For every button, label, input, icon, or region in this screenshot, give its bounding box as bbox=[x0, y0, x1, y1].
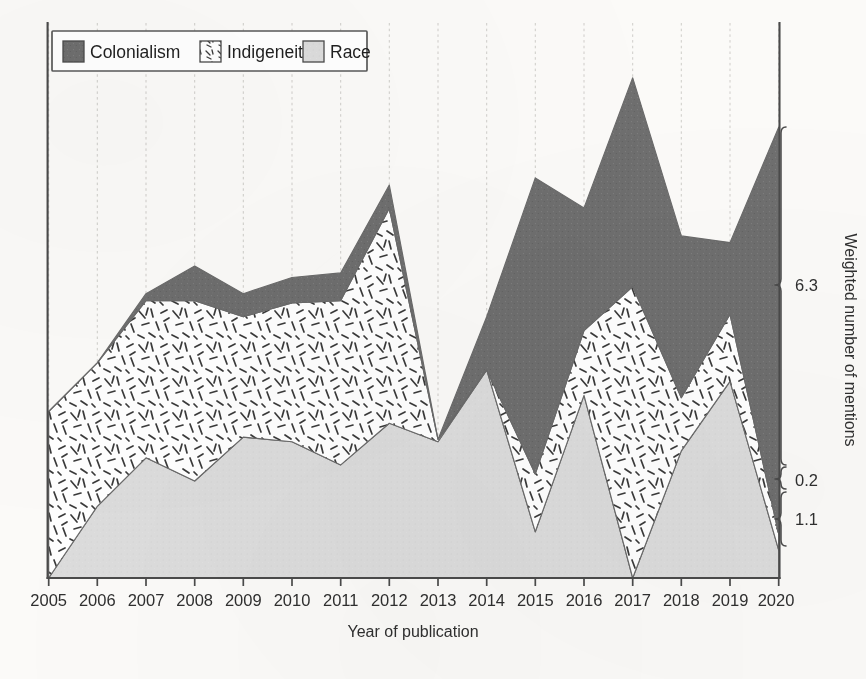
figure-container: 2005 2006 2007 2008 2009 2010 2011 2012 … bbox=[0, 0, 866, 679]
legend-label-race: Race bbox=[330, 42, 371, 62]
x-tick-label: 2014 bbox=[468, 591, 505, 609]
brace-label-indigeneity: 0.2 bbox=[795, 471, 818, 489]
x-tick-label: 2006 bbox=[79, 591, 116, 609]
x-tick-label: 2013 bbox=[420, 591, 457, 609]
y-axis-brace-indigeneity: 0.2 bbox=[775, 467, 818, 489]
x-tick-label: 2016 bbox=[566, 591, 603, 609]
y-axis-brace-colonialism: 6.3 bbox=[775, 127, 818, 465]
brace-label-race: 1.1 bbox=[795, 510, 818, 528]
x-axis-tick-labels: 2005 2006 2007 2008 2009 2010 2011 2012 … bbox=[30, 591, 794, 609]
x-tick-label: 2007 bbox=[128, 591, 165, 609]
x-tick-label: 2011 bbox=[323, 591, 358, 609]
x-tick-label: 2009 bbox=[225, 591, 262, 609]
legend-swatch-colonialism bbox=[63, 41, 84, 62]
x-tick-label: 2015 bbox=[517, 591, 554, 609]
area-chart: 2005 2006 2007 2008 2009 2010 2011 2012 … bbox=[0, 0, 866, 679]
x-tick-label: 2012 bbox=[371, 591, 408, 609]
legend-swatch-indigeneity bbox=[200, 41, 221, 62]
x-axis-title: Year of publication bbox=[347, 623, 478, 640]
y-axis-brace-race: 1.1 bbox=[775, 492, 818, 546]
x-tick-label: 2019 bbox=[712, 591, 749, 609]
legend-label-indigeneity: Indigeneity bbox=[227, 42, 312, 62]
x-tick-label: 2017 bbox=[614, 591, 651, 609]
x-tick-label: 2020 bbox=[758, 591, 795, 609]
y-axis-title: Weighted number of mentions bbox=[842, 233, 859, 446]
x-tick-label: 2018 bbox=[663, 591, 700, 609]
legend-label-colonialism: Colonialism bbox=[90, 42, 180, 62]
x-tick-label: 2005 bbox=[30, 591, 67, 609]
legend-swatch-race bbox=[303, 41, 324, 62]
x-tick-label: 2010 bbox=[274, 591, 311, 609]
x-tick-label: 2008 bbox=[176, 591, 213, 609]
brace-label-colonialism: 6.3 bbox=[795, 276, 818, 294]
x-axis-ticks bbox=[49, 578, 779, 586]
legend: Colonialism Indigeneity Race bbox=[52, 31, 371, 71]
